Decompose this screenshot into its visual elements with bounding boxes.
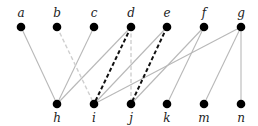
node-label-h: h	[53, 111, 61, 125]
node-e	[163, 23, 172, 32]
node-k	[163, 100, 172, 109]
node-g	[237, 23, 246, 32]
node-label-j: j	[126, 111, 133, 125]
node-b	[53, 23, 62, 32]
node-f	[200, 23, 209, 32]
edge-d-h	[57, 27, 131, 104]
node-label-a: a	[17, 6, 24, 20]
node-a	[17, 23, 26, 32]
edge-f-j	[131, 27, 204, 104]
node-m	[200, 100, 209, 109]
node-d	[127, 23, 136, 32]
node-n	[237, 100, 246, 109]
node-label-m: m	[198, 111, 209, 125]
edge-g-m	[204, 27, 241, 104]
node-c	[90, 23, 99, 32]
bipartite-graph: abcdefghijkmn	[0, 0, 258, 126]
node-label-g: g	[237, 6, 245, 20]
node-label-e: e	[163, 6, 170, 20]
node-label-c: c	[91, 6, 98, 20]
edge-a-h	[21, 27, 57, 104]
edge-e-j	[131, 27, 167, 104]
edge-f-k	[167, 27, 204, 104]
node-j	[127, 100, 136, 109]
edge-d-i	[94, 27, 131, 104]
node-i	[90, 100, 99, 109]
node-label-f: f	[201, 6, 209, 20]
node-label-n: n	[237, 111, 245, 125]
edges-layer	[21, 27, 241, 104]
node-label-d: d	[127, 6, 135, 20]
node-label-b: b	[53, 6, 61, 20]
node-label-k: k	[163, 111, 170, 125]
node-label-i: i	[92, 111, 96, 125]
node-h	[53, 100, 62, 109]
